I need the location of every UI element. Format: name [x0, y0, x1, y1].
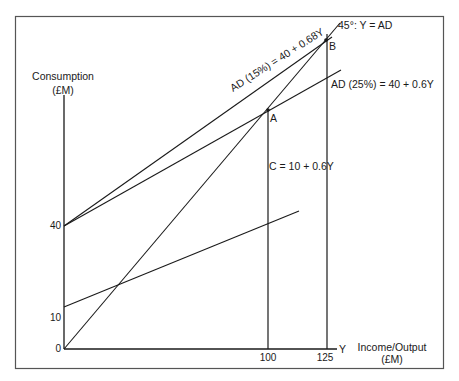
point-b-marker	[324, 38, 328, 42]
x-tick-125: 125	[317, 352, 334, 363]
y-axis-label-line2: (£M)	[52, 84, 74, 96]
x-axis-label-line2: (£M)	[381, 353, 403, 365]
x-tick-100: 100	[260, 352, 277, 363]
label-45-degree: 45°: Y = AD	[338, 19, 393, 31]
point-b-label: B	[329, 40, 336, 52]
label-ad-15: AD (15%) = 40 + 0.68Y	[228, 25, 326, 93]
label-consumption: C = 10 + 0.6Y	[269, 160, 334, 172]
label-ad-25: AD (25%) = 40 + 0.6Y	[331, 78, 434, 90]
point-a-label: A	[270, 112, 277, 124]
y-tick-10: 10	[50, 312, 62, 323]
x-axis-label-line1: Income/Output	[358, 341, 427, 353]
x-axis-symbol: Y	[339, 343, 346, 355]
line-consumption	[64, 211, 299, 307]
y-tick-40: 40	[50, 220, 62, 231]
keynesian-cross-diagram: Consumption (£M) 40 10 0 100 125 Y Incom…	[0, 0, 459, 381]
line-ad-25	[64, 70, 341, 226]
line-45-degree	[64, 23, 340, 349]
y-tick-0: 0	[55, 343, 61, 354]
y-axis-label-line1: Consumption	[32, 70, 94, 82]
line-ad-15	[64, 37, 332, 226]
